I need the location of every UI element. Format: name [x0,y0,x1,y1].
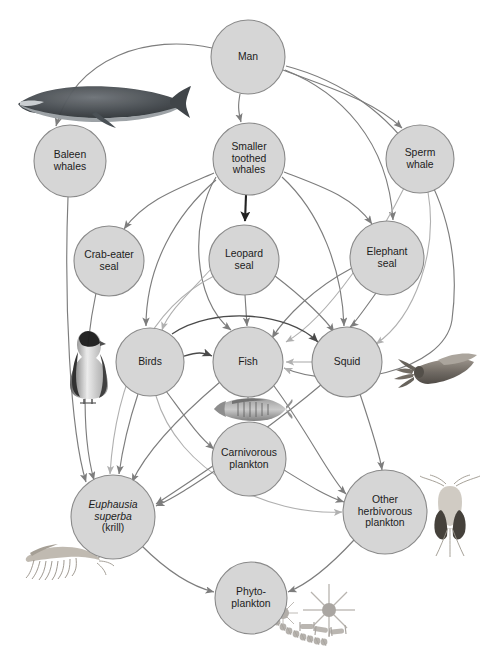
node-krill[interactable]: Euphausiasuperba(krill) [71,475,155,559]
copepod-image [420,475,480,557]
node-crab_eater_seal[interactable]: Crab-eaterseal [74,226,144,296]
node-label-elephant_seal: seal [377,258,396,269]
edge-squid-to-other-herbivorous-plankton [360,394,382,470]
node-label-elephant_seal: Elephant [366,246,407,257]
node-label-smaller_toothed_whales: whales [232,164,265,175]
node-sperm_whale[interactable]: Spermwhale [386,125,454,193]
node-label-krill: (krill) [102,522,125,533]
penguin-image [70,331,108,404]
node-label-sperm_whale: Sperm [405,147,436,158]
node-label-baleen_whales: Baleen [54,149,87,160]
node-label-smaller_toothed_whales: Smaller [231,141,267,152]
edge-birds-to-fish [184,353,212,356]
edge-carnivorous-plankton-to-krill [156,470,216,506]
edge-leopard-seal-to-fish [245,295,247,326]
node-label-phytoplankton: plankton [231,598,271,609]
edge-toothed-whales-to-squid [282,177,344,326]
node-fish[interactable]: Fish [213,327,283,397]
node-label-baleen_whales: whales [53,161,86,172]
edge-toothed-whales-to-elephant-seal [284,172,372,224]
edge-man-to-fish [284,66,454,378]
node-label-squid: Squid [334,356,361,367]
edge-krill-to-phytoplankton [142,546,214,592]
node-squid[interactable]: Squid [312,327,382,397]
node-label-man: Man [238,51,258,62]
node-label-leopard_seal: Leopard [225,248,263,259]
node-carnivorous_plankton[interactable]: Carnivorousplankton [212,422,286,496]
node-elephant_seal[interactable]: Elephantseal [350,221,424,295]
food-web-diagram: ManBaleenwhalesSmallertoothedwhalesSperm… [0,0,486,659]
edge-fish-to-other-herbivorous-plankton [274,386,346,494]
edge-toothed-whales-to-leopard-seal [245,195,246,221]
node-phytoplankton[interactable]: Phyto-plankton [215,562,287,634]
node-label-smaller_toothed_whales: toothed [232,153,267,164]
node-label-other_herbivorous_plankton: Other [372,494,399,505]
node-label-carnivorous_plankton: plankton [229,459,269,470]
node-baleen_whales[interactable]: Baleenwhales [34,125,106,197]
node-label-birds: Birds [138,356,162,367]
edge-birds-to-krill [119,394,138,474]
edge-carnivorous-plankton-to-other-herbivorous-plankton [284,470,344,502]
node-smaller_toothed_whales[interactable]: Smallertoothedwhales [213,123,285,195]
node-label-fish: Fish [238,356,258,367]
node-label-other_herbivorous_plankton: herbivorous [358,506,412,517]
node-label-phytoplankton: Phyto- [236,586,266,597]
node-birds[interactable]: Birds [116,328,184,396]
node-label-crab_eater_seal: seal [99,261,118,272]
node-man[interactable]: Man [211,20,285,94]
node-label-krill: Euphausia [88,499,137,510]
node-label-other_herbivorous_plankton: plankton [365,517,405,528]
edge-man-to-smaller-toothed-whales [239,94,241,122]
edge-birds-to-carnivorous-plankton [166,391,214,449]
edge-fish-to-krill [132,382,220,482]
baleen-whale-image [18,86,191,128]
squid-image [394,353,477,388]
node-other_herbivorous_plankton[interactable]: Otherherbivorousplankton [343,470,427,554]
node-label-sperm_whale: whale [405,159,433,170]
node-label-krill: superba [94,511,132,522]
node-label-leopard_seal: seal [234,260,253,271]
node-label-carnivorous_plankton: Carnivorous [221,447,277,458]
node-label-crab_eater_seal: Crab-eater [84,249,134,260]
node-leopard_seal[interactable]: Leopardseal [209,225,279,295]
edge-other-herbivorous-plankton-to-phytoplankton [288,540,354,592]
edge-elephant-seal-to-squid [350,293,376,327]
